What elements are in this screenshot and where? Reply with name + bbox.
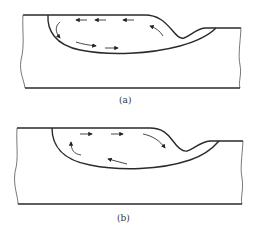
flow-arrow-icon [56,22,60,38]
flow-arrow-icon [71,142,81,155]
flow-arrow-icon [108,159,127,164]
flow-arrow-icon [76,42,96,46]
workpiece-top-surface [17,128,243,151]
panel-b-label: (b) [117,213,130,223]
panel-a [21,15,241,88]
workpiece-left-edge [21,15,25,88]
panel-b [15,128,243,204]
flow-arrow-icon [150,26,163,36]
workpiece-right-edge [241,141,243,204]
workpiece-left-edge [15,128,18,204]
workpiece-right-edge [239,28,241,88]
flow-arrow-icon [143,134,165,148]
diagram-canvas [0,0,258,229]
panel-a-label: (a) [119,95,131,105]
